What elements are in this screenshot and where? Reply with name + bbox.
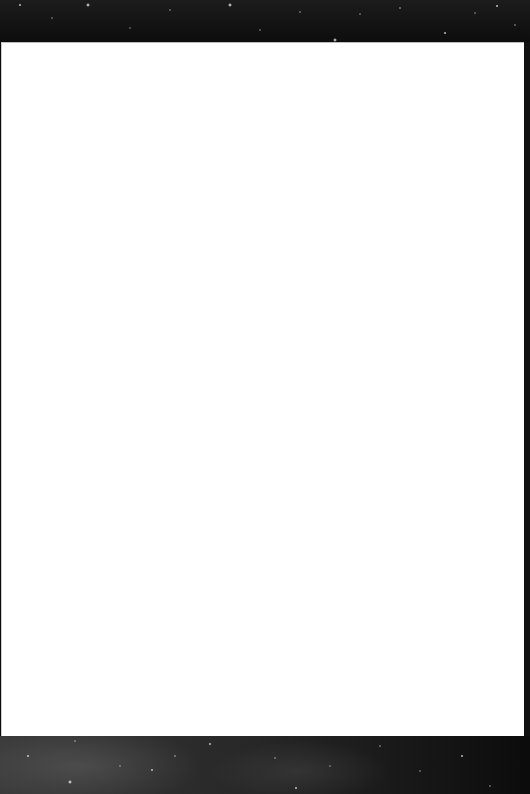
- page-edge-strip: [524, 42, 530, 736]
- blank-page: [1, 42, 524, 737]
- starfield-banner-bottom: [0, 736, 530, 794]
- starfield-banner-top: [0, 0, 530, 42]
